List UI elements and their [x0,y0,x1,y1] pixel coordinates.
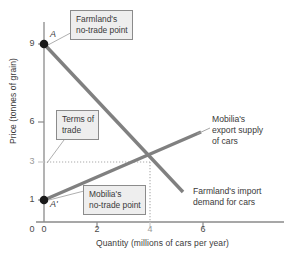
y-axis-title: Price (tonnes of grain) [8,41,18,161]
curve-label-mobilia-export-supply: Mobilia's export supply of cars [212,114,263,147]
curve-label-mobilia-line-1: Mobilia's [212,114,263,125]
callout-terms-of-trade-line-2: trade [62,125,94,136]
leader-line-terms-of-trade [47,140,64,163]
x-tick-label-4: 4 [142,224,158,234]
curve-label-farmland-line-1: Farmland's import [193,186,262,197]
y-tick-label-6: 6 [24,116,40,126]
callout-mobilia-no-trade-point: Mobilia's no-trade point [83,185,146,215]
curve-label-mobilia-line-3: of cars [212,136,263,147]
data-point-a [40,40,49,49]
point-label-a: A [50,29,56,39]
curve-label-farmland-line-2: demand for cars [193,197,262,208]
callout-farmland-no-trade-line-1: Farmland's [76,14,128,25]
y-tick-label-9: 9 [24,38,40,48]
x-tick-label-6: 6 [195,224,211,234]
callout-farmland-no-trade-point: Farmland's no-trade point [70,10,133,40]
callout-terms-of-trade: Terms of trade [56,110,99,140]
callout-terms-of-trade-line-1: Terms of [62,114,94,125]
data-point-a-prime [40,196,49,205]
x-tick-label-2: 2 [89,224,105,234]
chart-figure: Price (tonnes of grain) Quantity (millio… [0,0,287,256]
callout-mobilia-no-trade-line-1: Mobilia's [89,189,141,200]
curve-label-farmland-import-demand: Farmland's import demand for cars [193,186,262,208]
curve-label-mobilia-line-2: export supply [212,125,263,136]
y-tick-label-3: 3 [24,156,40,166]
y-tick-label-1: 1 [24,194,40,204]
callout-farmland-no-trade-line-2: no-trade point [76,25,128,36]
callout-mobilia-no-trade-line-2: no-trade point [89,200,141,211]
leader-line-mobilia-supply [197,128,210,134]
x-axis-title: Quantity (millions of cars per year) [96,238,229,248]
point-label-a-prime: A' [50,199,58,209]
x-tick-label-0: 0 [36,224,52,234]
